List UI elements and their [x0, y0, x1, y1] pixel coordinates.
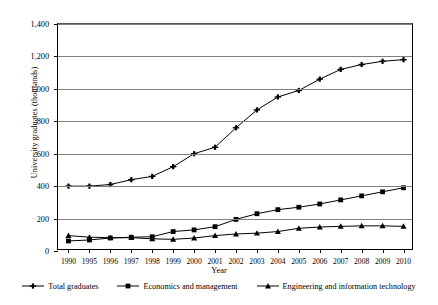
y-axis-tick-mark	[54, 251, 58, 252]
data-point-marker	[275, 207, 280, 212]
legend-label: Economics and management	[143, 282, 237, 291]
data-point-marker	[317, 77, 323, 82]
legend-marker-icon	[257, 281, 279, 291]
gridline	[58, 24, 412, 25]
legend-marker-icon	[117, 281, 139, 291]
chart-legend: Total graduatesEconomics and managementE…	[0, 281, 438, 291]
data-point-marker	[213, 224, 218, 229]
data-point-marker	[192, 228, 197, 233]
series-layer	[58, 24, 414, 251]
gridline	[58, 56, 412, 57]
y-axis-tick-label: 1,400	[9, 20, 49, 29]
gridline	[58, 121, 412, 122]
x-axis-tick-mark	[131, 249, 132, 253]
y-axis-tick-mark	[54, 186, 58, 187]
y-axis-tick-mark	[54, 121, 58, 122]
data-point-marker	[359, 193, 364, 198]
x-axis-tick-mark	[320, 249, 321, 253]
data-point-marker	[296, 205, 301, 210]
data-point-marker	[128, 177, 134, 182]
x-axis-tick-mark	[68, 249, 69, 253]
data-point-marker	[379, 59, 385, 64]
data-point-marker	[255, 211, 260, 216]
x-axis-tick-mark	[278, 249, 279, 253]
series-line	[68, 60, 403, 186]
data-point-marker	[66, 239, 71, 244]
x-axis-tick-mark	[236, 249, 237, 253]
gridline	[58, 219, 412, 220]
y-axis-tick-mark	[54, 219, 58, 220]
x-axis-tick-mark	[404, 249, 405, 253]
legend-item-3[interactable]: Engineering and information technology	[257, 281, 416, 291]
legend-marker-icon	[22, 281, 44, 291]
y-axis-tick-label: 600	[9, 149, 49, 158]
x-axis-tick-mark	[341, 249, 342, 253]
y-axis-tick-label: 200	[9, 214, 49, 223]
chart-container: University graduates (thousands) 0200400…	[0, 0, 438, 305]
legend-label: Total graduates	[48, 282, 98, 291]
legend-item-2[interactable]: Economics and management	[117, 281, 237, 291]
y-axis-tick-label: 800	[9, 117, 49, 126]
x-axis-tick-mark	[152, 249, 153, 253]
x-axis-tick-mark	[383, 249, 384, 253]
x-axis-tick-mark	[299, 249, 300, 253]
y-axis-tick-mark	[54, 154, 58, 155]
y-axis-tick-label: 400	[9, 182, 49, 191]
data-point-marker	[149, 174, 155, 179]
data-point-marker	[317, 202, 322, 207]
x-axis-tick-mark	[173, 249, 174, 253]
x-axis-tick-mark	[194, 249, 195, 253]
x-axis-tick-mark	[215, 249, 216, 253]
x-axis-tick-label: 2010	[384, 257, 424, 266]
y-axis-tick-mark	[54, 56, 58, 57]
x-axis-title: Year	[0, 266, 438, 275]
data-point-marker	[338, 67, 344, 72]
y-axis-tick-label: 1,200	[9, 52, 49, 61]
x-axis-tick-mark	[257, 249, 258, 253]
data-point-marker	[338, 198, 343, 203]
legend-item-1[interactable]: Total graduates	[22, 281, 98, 291]
x-axis-tick-mark	[89, 249, 90, 253]
plot-area: 02004006008001,0001,2001,400199019951996…	[57, 23, 413, 250]
legend-label: Engineering and information technology	[283, 282, 416, 291]
y-axis-tick-label: 1,000	[9, 84, 49, 93]
gridline	[58, 186, 412, 187]
data-point-marker	[358, 62, 364, 67]
data-point-marker	[380, 189, 385, 194]
gridline	[58, 89, 412, 90]
data-point-marker	[400, 57, 406, 62]
data-point-marker	[171, 229, 176, 234]
y-axis-tick-mark	[54, 24, 58, 25]
x-axis-tick-mark	[362, 249, 363, 253]
x-axis-tick-mark	[110, 249, 111, 253]
y-axis-tick-label: 0	[9, 247, 49, 256]
gridline	[58, 154, 412, 155]
y-axis-tick-mark	[54, 89, 58, 90]
